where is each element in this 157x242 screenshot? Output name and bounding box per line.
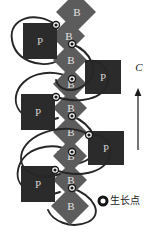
p-unit-label: P [35, 178, 41, 190]
b-unit-label: B [67, 174, 74, 186]
b-unit-label: B [73, 6, 80, 18]
growth-point-node-core [54, 23, 57, 26]
growth-point-node-core [70, 77, 73, 80]
growth-point-node-core [70, 114, 73, 117]
legend: 生长点 [99, 194, 140, 206]
growth-point-node-core [70, 42, 73, 45]
growth-point-node-core [54, 95, 57, 98]
b-unit-label: B [67, 126, 74, 138]
p-unit-label: P [100, 71, 106, 83]
axis-label-c: C [135, 61, 143, 73]
b-unit-label: B [65, 30, 72, 42]
growth-axis: C [135, 61, 144, 150]
legend-label: 生长点 [110, 194, 140, 206]
b-unit-label: B [67, 54, 74, 66]
growth-point-icon-center [102, 200, 105, 203]
diagram-canvas: BBBBBBBBB PPPPP C 生长点 [0, 0, 157, 242]
growth-point-node-core [87, 133, 90, 136]
growth-point-node-core [70, 150, 73, 153]
axis-arrow-head [135, 88, 142, 96]
p-unit-label: P [37, 35, 43, 47]
growth-point-node-core [53, 168, 56, 171]
polymer-chain-diagram: BBBBBBBBB PPPPP C 生长点 [0, 0, 157, 242]
growth-point-node-core [70, 186, 73, 189]
p-unit-label: P [35, 106, 41, 118]
b-unit-label: B [67, 102, 74, 114]
b-unit-label: B [67, 200, 74, 212]
